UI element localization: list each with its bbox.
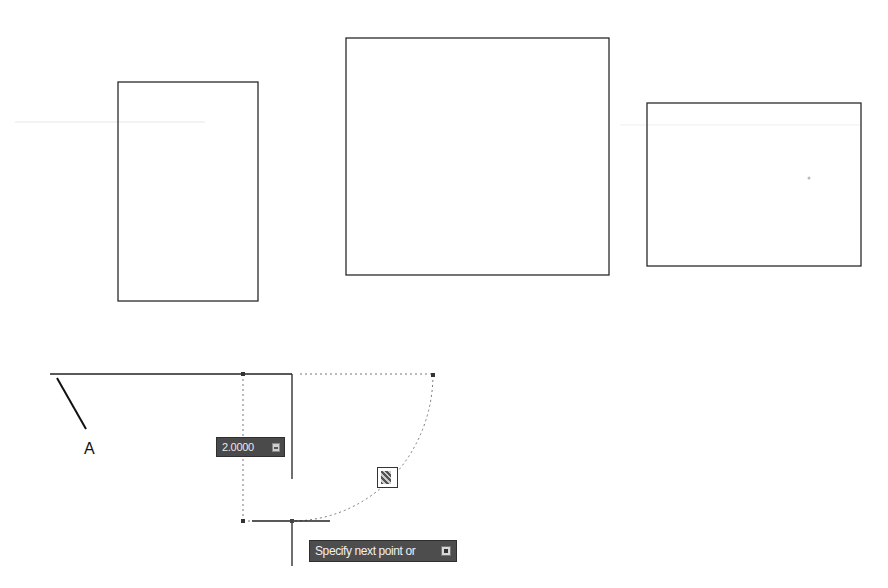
command-prompt-tooltip: Specify next point or [309,540,457,562]
endpoint-marker [241,519,245,523]
dynamic-input-value[interactable]: 2.0000 [222,441,254,453]
endpoint-marker [241,372,245,376]
dynamic-input-field[interactable]: 2.0000 [216,437,285,457]
endpoint-marker [431,373,435,377]
faint-point [808,177,811,180]
command-prompt-text: Specify next point or [315,544,415,558]
point-a-label: A [84,440,95,458]
point-a-leader [57,378,86,429]
rectangle-1[interactable] [118,82,258,301]
endpoint-marker [290,519,294,523]
rectangle-3[interactable] [647,103,861,266]
object-snap-glyph-icon [377,467,398,488]
options-dropdown-icon[interactable] [441,546,451,556]
drawing-canvas[interactable] [0,0,888,588]
dynamic-input-lock-icon[interactable] [272,443,280,452]
rectangle-2[interactable] [346,38,609,275]
arc-preview [292,375,433,521]
